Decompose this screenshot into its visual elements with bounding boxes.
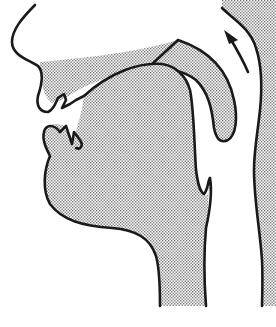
tongue bbox=[44, 64, 211, 306]
upper-teeth bbox=[58, 94, 84, 108]
vocal-tract-diagram bbox=[0, 0, 276, 327]
pharynx-wall bbox=[222, 0, 276, 306]
nasal-airflow-arrow bbox=[224, 30, 248, 72]
